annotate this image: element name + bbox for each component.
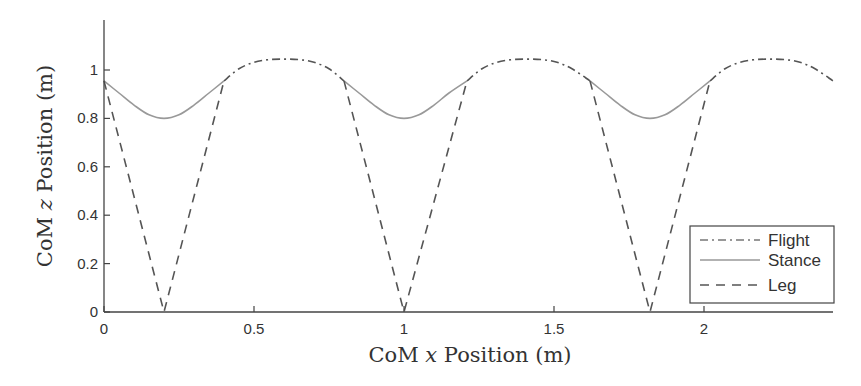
x-tick-label: 1.5	[544, 320, 565, 337]
legend: Flight Stance Leg	[690, 226, 834, 303]
series-flight-line	[710, 59, 833, 81]
y-ticks: 00.20.40.60.81	[77, 61, 110, 320]
series-leg-line	[344, 81, 467, 312]
x-tick-label: 0	[100, 320, 108, 337]
legend-label-flight: Flight	[768, 231, 810, 250]
y-axis-label: CoM z Position (m)	[33, 65, 57, 267]
chart: 00.511.52 00.20.40.60.81 CoM x Position …	[0, 0, 861, 386]
series-leg-line	[104, 81, 224, 312]
x-axis-label: CoM x Position (m)	[368, 343, 571, 367]
legend-label-leg: Leg	[768, 276, 796, 295]
series-flight-line	[224, 59, 344, 81]
legend-label-stance: Stance	[768, 251, 821, 270]
series-stance-line	[590, 81, 710, 119]
y-tick-label: 0.2	[77, 255, 98, 272]
x-tick-label: 2	[700, 320, 708, 337]
y-tick-label: 0	[90, 303, 98, 320]
x-tick-label: 0.5	[244, 320, 265, 337]
x-tick-label: 1	[400, 320, 408, 337]
series-flight-line	[467, 59, 590, 81]
series-stance-line	[104, 81, 224, 119]
y-tick-label: 0.6	[77, 158, 98, 175]
y-tick-label: 1	[90, 61, 98, 78]
y-tick-label: 0.4	[77, 206, 98, 223]
series-stance-line	[344, 81, 467, 119]
x-ticks: 00.511.52	[100, 306, 708, 337]
y-tick-label: 0.8	[77, 109, 98, 126]
